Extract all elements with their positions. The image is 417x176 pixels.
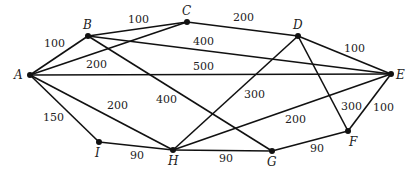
- edge-weight-label: 500: [193, 60, 214, 73]
- edge-weight-label: 300: [244, 88, 265, 101]
- weighted-graph: 1001002001002004005004002001509090901003…: [0, 0, 417, 176]
- vertex-label: A: [13, 68, 23, 82]
- edge-weight-label: 90: [130, 149, 144, 162]
- vertex-g: [269, 148, 275, 154]
- edge-c-d: [187, 22, 298, 36]
- edge-weights: 1001002001002004005004002001509090901003…: [43, 11, 394, 165]
- vertex-label: G: [267, 155, 277, 169]
- vertex-label: F: [348, 135, 358, 149]
- vertex-label: C: [182, 4, 191, 18]
- vertex-labels: ABCDEFGHI: [13, 4, 405, 169]
- graph-diagram: 1001002001002004005004002001509090901003…: [0, 0, 417, 176]
- edge-a-i: [30, 75, 99, 142]
- vertex-label: E: [395, 68, 405, 82]
- edge-weight-label: 100: [44, 37, 65, 50]
- vertex-b: [85, 33, 91, 39]
- edge-weight-label: 100: [344, 42, 365, 55]
- vertex-label: B: [82, 18, 92, 32]
- edge-weight-label: 400: [156, 93, 177, 106]
- edge-a-e: [30, 74, 391, 75]
- edge-weight-label: 200: [86, 58, 107, 71]
- edge-h-g: [173, 150, 272, 151]
- vertex-h: [170, 147, 176, 153]
- edge-weight-label: 90: [219, 152, 233, 165]
- vertex-label: H: [167, 154, 179, 168]
- edge-weight-label: 150: [43, 111, 64, 124]
- vertex-i: [96, 139, 102, 145]
- vertex-e: [388, 71, 394, 77]
- edge-weight-label: 200: [285, 113, 306, 126]
- edge-weight-label: 300: [341, 100, 362, 113]
- vertex-d: [295, 33, 301, 39]
- vertex-c: [184, 19, 190, 25]
- edge-weight-label: 200: [107, 99, 128, 112]
- vertex-a: [27, 72, 33, 78]
- edge-weight-label: 100: [373, 101, 394, 114]
- vertex-label: I: [94, 146, 100, 160]
- edge-weight-label: 400: [193, 35, 214, 48]
- vertex-label: D: [292, 18, 303, 32]
- edge-d-h: [173, 36, 298, 150]
- edge-weight-label: 90: [310, 142, 324, 155]
- vertex-f: [345, 128, 351, 134]
- edge-weight-label: 200: [233, 11, 254, 24]
- edge-weight-label: 100: [128, 13, 149, 26]
